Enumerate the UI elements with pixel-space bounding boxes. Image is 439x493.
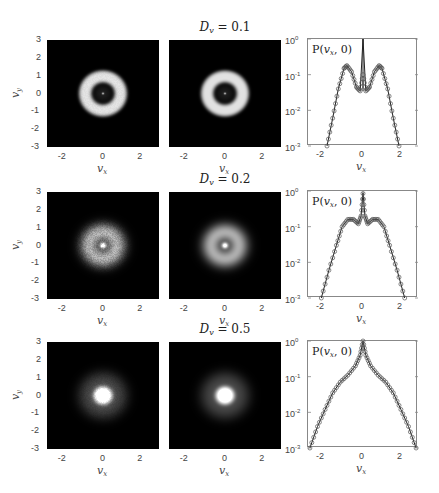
y-tick-label: -3 <box>31 142 39 151</box>
y-tick-label: 1 <box>36 373 41 382</box>
y-tick-label: 10-3 <box>285 141 300 153</box>
y-tick-label: 100 <box>285 186 298 198</box>
profile-legend: P(vx, 0) <box>312 195 352 209</box>
profile-plot-1: P(vx, 0) <box>307 190 417 297</box>
density-image-simulation-0 <box>47 40 159 147</box>
x-tick-label: -2 <box>58 454 66 463</box>
x-tick-label: -2 <box>180 454 188 463</box>
x-tick-label: 2 <box>259 454 264 463</box>
y-tick-label: -2 <box>31 426 39 435</box>
x-tick-label: 2 <box>137 454 142 463</box>
x-axis-label: vx <box>97 314 107 328</box>
density-image-theory-2 <box>169 342 281 449</box>
row-title-1: Dv = 0.2 <box>155 172 295 187</box>
density-image-simulation-1 <box>47 192 159 299</box>
x-tick-label: 2 <box>259 304 264 313</box>
x-axis-label: vx <box>97 464 107 478</box>
x-tick-label: 0 <box>100 454 105 463</box>
y-tick-label: 3 <box>36 337 41 346</box>
y-tick-label: -1 <box>31 258 39 267</box>
y-tick-label: 3 <box>36 35 41 44</box>
y-tick-label: 2 <box>36 53 41 62</box>
x-tick-label: -2 <box>316 452 324 461</box>
density-heatmap <box>47 40 159 147</box>
profile-legend: P(vx, 0) <box>312 345 352 359</box>
x-tick-label: -2 <box>58 304 66 313</box>
y-tick-label: 0 <box>36 241 41 250</box>
y-tick-label: -3 <box>31 294 39 303</box>
y-tick-label: 10-2 <box>285 407 300 419</box>
x-tick-label: 0 <box>359 452 364 461</box>
y-tick-label: -1 <box>31 106 39 115</box>
y-tick-label: 10-2 <box>285 105 300 117</box>
x-tick-label: -2 <box>316 302 324 311</box>
y-tick-label: -2 <box>31 276 39 285</box>
density-image-simulation-2 <box>47 342 159 449</box>
x-tick-label: 2 <box>397 452 402 461</box>
profile-plot-2: P(vx, 0) <box>307 340 417 447</box>
x-tick-label: -2 <box>316 150 324 159</box>
x-axis-label: vx <box>219 464 229 478</box>
y-axis-label: vy <box>9 389 23 399</box>
y-tick-label: 10-1 <box>285 372 300 384</box>
y-tick-label: -1 <box>31 408 39 417</box>
y-tick-label: 0 <box>36 89 41 98</box>
y-tick-label: 2 <box>36 355 41 364</box>
y-tick-label: -2 <box>31 124 39 133</box>
x-tick-label: 2 <box>397 302 402 311</box>
y-tick-label: 1 <box>36 223 41 232</box>
x-tick-label: 2 <box>259 152 264 161</box>
y-tick-label: 2 <box>36 205 41 214</box>
y-tick-label: 10-2 <box>285 257 300 269</box>
x-tick-label: 0 <box>100 304 105 313</box>
profile-plot-0: P(vx, 0) <box>307 38 417 145</box>
y-tick-label: -3 <box>31 444 39 453</box>
x-tick-label: 0 <box>359 150 364 159</box>
x-axis-label: vx <box>356 462 366 476</box>
y-tick-label: 1 <box>36 71 41 80</box>
profile-legend: P(vx, 0) <box>312 43 352 57</box>
x-tick-label: 0 <box>359 302 364 311</box>
density-heatmap <box>169 192 281 299</box>
row-title-2: Dv = 0.5 <box>155 322 295 337</box>
x-tick-label: -2 <box>58 152 66 161</box>
density-heatmap <box>169 342 281 449</box>
y-tick-label: 100 <box>285 336 298 348</box>
density-image-theory-1 <box>169 192 281 299</box>
y-axis-label: vy <box>9 87 23 97</box>
density-heatmap <box>169 40 281 147</box>
y-tick-label: 3 <box>36 187 41 196</box>
y-tick-label: 0 <box>36 391 41 400</box>
x-axis-label: vx <box>356 160 366 174</box>
x-tick-label: 2 <box>137 152 142 161</box>
x-tick-label: 0 <box>222 304 227 313</box>
x-tick-label: 2 <box>137 304 142 313</box>
x-axis-label: vx <box>97 162 107 176</box>
y-tick-label: 100 <box>285 34 298 46</box>
density-heatmap <box>47 342 159 449</box>
x-axis-label: vx <box>356 312 366 326</box>
x-tick-label: 2 <box>397 150 402 159</box>
x-tick-label: 0 <box>222 152 227 161</box>
density-image-theory-0 <box>169 40 281 147</box>
row-title-0: Dv = 0.1 <box>155 20 295 35</box>
x-tick-label: -2 <box>180 304 188 313</box>
x-tick-label: 0 <box>222 454 227 463</box>
x-tick-label: 0 <box>100 152 105 161</box>
y-tick-label: 10-1 <box>285 222 300 234</box>
y-tick-label: 10-1 <box>285 70 300 82</box>
y-axis-label: vy <box>9 239 23 249</box>
density-heatmap <box>47 192 159 299</box>
x-tick-label: -2 <box>180 152 188 161</box>
y-tick-label: 10-3 <box>285 293 300 305</box>
y-tick-label: 10-3 <box>285 443 300 455</box>
